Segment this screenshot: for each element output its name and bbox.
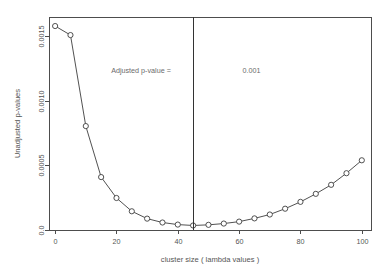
data-point-marker xyxy=(344,171,349,176)
x-axis-tick-label: 0 xyxy=(54,237,58,246)
data-point-marker xyxy=(283,206,288,211)
y-axis-title: Unadjusted p-values xyxy=(13,89,22,158)
data-point-marker xyxy=(145,216,150,221)
chart-figure: 0204060801000.00.00050.00100.0015cluster… xyxy=(0,0,387,273)
x-axis-tick-label: 40 xyxy=(175,237,183,246)
data-point-marker xyxy=(237,219,242,224)
data-point-marker xyxy=(99,174,104,179)
y-axis-tick-label: 0.0 xyxy=(37,226,46,236)
y-axis-tick-label: 0.0015 xyxy=(37,26,46,48)
data-point-marker xyxy=(68,32,73,37)
x-axis-tick-label: 60 xyxy=(236,237,244,246)
y-axis-tick-label: 0.0005 xyxy=(37,155,46,177)
x-axis-title: cluster size ( lambda values ) xyxy=(161,255,260,264)
data-point-marker xyxy=(53,23,58,28)
data-point-marker xyxy=(83,123,88,128)
data-point-marker xyxy=(221,221,226,226)
plot-frame xyxy=(50,18,372,231)
data-point-marker xyxy=(129,209,134,214)
data-point-marker xyxy=(329,182,334,187)
data-point-marker xyxy=(298,199,303,204)
data-point-marker xyxy=(206,222,211,227)
data-point-marker xyxy=(252,216,257,221)
adjusted-p-value-label: Adjusted p-value = xyxy=(111,66,171,75)
x-axis-tick-label: 100 xyxy=(357,237,369,246)
data-point-marker xyxy=(359,158,364,163)
y-axis-tick-label: 0.0010 xyxy=(37,91,46,113)
data-point-marker xyxy=(160,220,165,225)
data-point-marker xyxy=(175,222,180,227)
data-point-marker xyxy=(313,191,318,196)
x-axis-tick-label: 80 xyxy=(297,237,305,246)
plot-canvas: 0204060801000.00.00050.00100.0015cluster… xyxy=(0,0,387,273)
adjusted-p-value-number: 0.001 xyxy=(242,66,260,75)
data-point-marker xyxy=(267,212,272,217)
x-axis-tick-label: 20 xyxy=(113,237,121,246)
data-point-marker xyxy=(114,195,119,200)
